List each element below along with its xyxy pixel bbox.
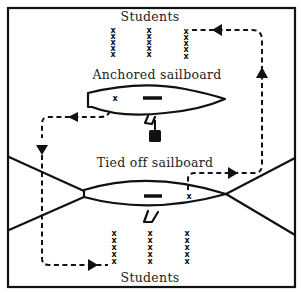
label-anchored-sailboard: Anchored sailboard bbox=[91, 67, 221, 82]
sailboard-drill-diagram: Students x x x x x x x x x x x x x x bbox=[0, 0, 301, 293]
tied-off-sailboard: x bbox=[84, 181, 226, 222]
students-bottom-group: x x x x x x x x x x x x x x x bbox=[111, 229, 190, 266]
svg-text:x: x bbox=[146, 50, 152, 59]
student-column: x x x x x bbox=[147, 229, 153, 266]
arrow-down-icon bbox=[36, 145, 48, 155]
arrow-left-icon bbox=[68, 112, 78, 122]
label-tied-off-sailboard: Tied off sailboard bbox=[97, 155, 214, 170]
label-students-bottom: Students bbox=[121, 270, 180, 285]
arrow-right-icon bbox=[88, 259, 98, 271]
arrow-left-icon bbox=[212, 24, 222, 36]
svg-text:x: x bbox=[111, 257, 117, 266]
label-students-top: Students bbox=[121, 9, 180, 24]
svg-text:x: x bbox=[186, 192, 192, 201]
svg-text:x: x bbox=[112, 94, 118, 103]
arrow-up-icon bbox=[256, 67, 268, 78]
student-column: x x x x x bbox=[183, 27, 189, 61]
student-column: x x x x x bbox=[110, 26, 116, 59]
svg-text:x: x bbox=[110, 50, 116, 59]
student-column: x x x x x bbox=[146, 26, 152, 59]
students-top-group: x x x x x x x x x x x x x x x bbox=[110, 26, 189, 61]
svg-text:x: x bbox=[183, 52, 189, 61]
anchor-icon bbox=[149, 130, 161, 142]
student-column: x x x x x bbox=[111, 229, 117, 266]
svg-text:x: x bbox=[184, 257, 190, 266]
arrow-right-icon bbox=[228, 167, 238, 179]
student-column: x x x x x bbox=[184, 229, 190, 266]
svg-text:x: x bbox=[147, 257, 153, 266]
